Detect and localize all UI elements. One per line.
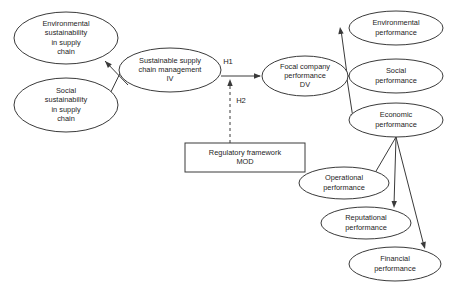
node-label-line: chain xyxy=(57,47,75,56)
node-label-line: Social xyxy=(56,86,76,95)
node-reputational-performance[interactable]: Reputationalperformance xyxy=(321,207,411,239)
node-label-line: Environmental xyxy=(372,18,420,27)
node-label-line: performance xyxy=(345,223,387,232)
node-label-line: MOD xyxy=(236,157,253,166)
node-label-line: in supply xyxy=(51,105,80,114)
arrow-head-icon xyxy=(254,73,261,78)
node-label-line: Financial xyxy=(380,254,410,263)
edge-path xyxy=(394,137,396,205)
node-environmental-sustainability[interactable]: Environmentalsustainabilityin supplychai… xyxy=(14,12,118,64)
nodes-layer: Environmentalsustainabilityin supplychai… xyxy=(14,11,443,281)
edge-label-h2: H2 xyxy=(236,96,246,105)
conceptual-model-diagram: Environmentalsustainabilityin supplychai… xyxy=(0,0,451,290)
node-label-line: Sustainable supply xyxy=(139,56,201,65)
node-label-line: IV xyxy=(167,74,174,83)
node-social-performance[interactable]: Socialperformance xyxy=(349,59,443,93)
node-label-line: Regulatory framework xyxy=(209,148,282,157)
node-label-line: Social xyxy=(386,66,406,75)
node-label-line: performance xyxy=(323,183,365,192)
arrow-head-icon xyxy=(421,242,428,250)
node-label-line: Reputational xyxy=(345,213,387,222)
node-environmental-performance[interactable]: Environmentalperformance xyxy=(349,11,443,45)
node-label-line: chain management xyxy=(139,65,202,74)
node-operational-performance[interactable]: Operationalperformance xyxy=(299,167,389,199)
node-social-sustainability[interactable]: Socialsustainabilityin supplychain xyxy=(14,78,118,132)
arrow-head-icon xyxy=(391,201,397,208)
node-economic-performance[interactable]: Economicperformance xyxy=(349,103,443,137)
node-label-line: Economic xyxy=(380,110,413,119)
node-label-line: Environmental xyxy=(42,19,90,28)
node-label-line: Focal company xyxy=(280,62,330,71)
node-sustainable-supply-chain-management[interactable]: Sustainable supplychain managementIV xyxy=(119,48,221,92)
edge-economic-to-reputational-performance xyxy=(391,137,397,208)
edge-label-h1: H1 xyxy=(223,57,233,66)
node-label-line: performance xyxy=(374,264,416,273)
node-label-line: performance xyxy=(375,120,417,129)
node-focal-company-performance[interactable]: Focal companyperformanceDV xyxy=(262,56,348,96)
node-label-line: Operational xyxy=(325,173,364,182)
arrow-head-icon xyxy=(227,79,232,86)
node-label-line: performance xyxy=(375,28,417,37)
node-regulatory-framework[interactable]: Regulatory frameworkMOD xyxy=(185,143,305,172)
arrow-head-icon xyxy=(337,27,343,35)
node-label-line: DV xyxy=(300,80,310,89)
node-label-line: performance xyxy=(375,76,417,85)
node-label-line: sustainability xyxy=(45,28,88,37)
node-financial-performance[interactable]: Financialperformance xyxy=(349,247,441,281)
edge-path xyxy=(347,79,353,118)
edge-regulatory-framework-to-h1-path xyxy=(227,79,232,143)
node-label-line: in supply xyxy=(51,38,80,47)
node-label-line: sustainability xyxy=(45,95,88,104)
edge-sscm-to-focal-company xyxy=(221,73,261,78)
node-label-line: chain xyxy=(57,114,75,123)
edge-labels-layer: H1H2 xyxy=(223,57,246,105)
diagram-canvas: Environmentalsustainabilityin supplychai… xyxy=(0,0,451,290)
node-label-line: performance xyxy=(284,71,326,80)
